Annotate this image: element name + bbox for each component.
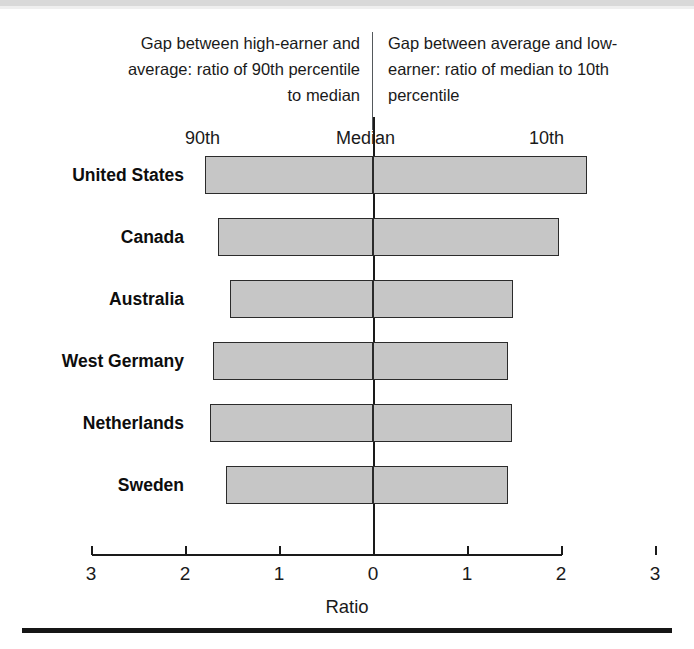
- x-axis-tick: [373, 546, 375, 555]
- bottom-rule-decoration: [22, 628, 672, 633]
- bar-left-high-earner-gap: [218, 218, 373, 256]
- chart-caption-row: Gap between high-earner and average: rat…: [0, 30, 694, 130]
- caption-right-text: Gap between average and low-earner: rati…: [388, 30, 656, 108]
- x-axis-tick: [655, 546, 657, 555]
- bar-left-high-earner-gap: [226, 466, 373, 504]
- x-axis: 3210123: [0, 554, 694, 556]
- category-label: United States: [8, 155, 184, 195]
- bar-right-low-earner-gap: [373, 280, 513, 318]
- caption-left-text: Gap between high-earner and average: rat…: [110, 30, 360, 108]
- chart-row: Australia: [0, 279, 694, 341]
- column-head-90th: 90th: [185, 126, 220, 150]
- x-axis-title: Ratio: [0, 596, 694, 618]
- x-axis-tick-label: 0: [368, 562, 379, 586]
- bar-left-high-earner-gap: [205, 156, 373, 194]
- category-label: Canada: [8, 217, 184, 257]
- x-axis-tick-label: 2: [180, 562, 191, 586]
- column-headings: 90th Median 10th: [0, 126, 694, 152]
- column-head-10th: 10th: [529, 126, 564, 150]
- x-axis-line: [92, 554, 562, 556]
- x-axis-tick: [467, 546, 469, 555]
- x-axis-tick-label: 3: [650, 562, 661, 586]
- chart-row: Canada: [0, 217, 694, 279]
- top-band-fade-decoration: [0, 6, 694, 9]
- category-label: Australia: [8, 279, 184, 319]
- caption-divider: [372, 32, 373, 130]
- x-axis-tick: [91, 546, 93, 555]
- chart-row: United States: [0, 155, 694, 217]
- x-axis-tick-label: 2: [556, 562, 567, 586]
- bar-right-low-earner-gap: [373, 218, 559, 256]
- x-axis-tick-label: 1: [462, 562, 473, 586]
- category-label: West Germany: [8, 341, 184, 381]
- bar-right-low-earner-gap: [373, 404, 512, 442]
- bar-left-high-earner-gap: [213, 342, 373, 380]
- x-axis-tick-label: 3: [86, 562, 97, 586]
- x-axis-tick: [185, 546, 187, 555]
- category-label: Netherlands: [8, 403, 184, 443]
- bar-right-low-earner-gap: [373, 466, 508, 504]
- chart-row: Netherlands: [0, 403, 694, 465]
- bar-right-low-earner-gap: [373, 342, 508, 380]
- plot-area: United StatesCanadaAustraliaWest Germany…: [0, 155, 694, 555]
- chart-figure: Gap between high-earner and average: rat…: [0, 0, 694, 649]
- category-label: Sweden: [8, 465, 184, 505]
- x-axis-tick-label: 1: [274, 562, 285, 586]
- chart-row: West Germany: [0, 341, 694, 403]
- bar-right-low-earner-gap: [373, 156, 587, 194]
- x-axis-tick: [561, 546, 563, 555]
- x-axis-tick: [279, 546, 281, 555]
- chart-row: Sweden: [0, 465, 694, 527]
- bar-left-high-earner-gap: [230, 280, 373, 318]
- column-head-median: Median: [336, 126, 395, 150]
- bar-left-high-earner-gap: [210, 404, 373, 442]
